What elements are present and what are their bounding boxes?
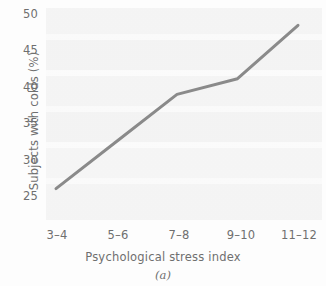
- figure-caption: (a): [0, 268, 326, 282]
- x-tick-label: 9–10: [227, 228, 256, 242]
- x-tick-label: 5–6: [108, 228, 129, 242]
- x-tick-label: 11–12: [281, 228, 317, 242]
- x-axis-tick-labels: 3–4 5–6 7–8 9–10 11–12: [0, 228, 326, 244]
- x-tick-label: 7–8: [169, 228, 190, 242]
- plot-area: [46, 8, 322, 220]
- x-tick-label: 3–4: [47, 228, 68, 242]
- data-series-line: [56, 25, 298, 188]
- x-axis-title: Psychological stress index: [0, 250, 326, 264]
- y-tick-label: 50: [23, 7, 38, 21]
- y-axis-title: Subjects with colds (%): [27, 21, 41, 221]
- chart-figure: 50 45 40 35 30 25 3–4 5–6 7–8 9–10 11–12…: [0, 0, 326, 286]
- data-line-svg: [46, 8, 322, 220]
